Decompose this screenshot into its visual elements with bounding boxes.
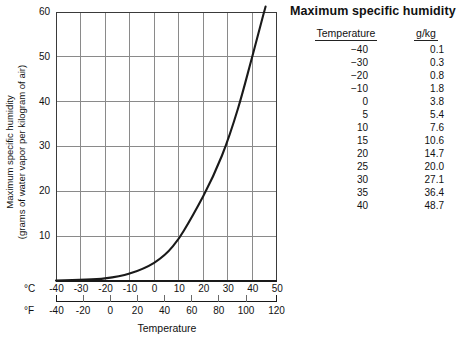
x-tick-f-120: 120	[260, 306, 294, 316]
cell-value: 0.1	[394, 43, 458, 56]
x-axis-title: Temperature	[56, 322, 278, 334]
cell-temperature: 25	[298, 160, 394, 173]
y-tick-20: 20	[26, 186, 50, 196]
table-row: −20 0.8	[298, 69, 458, 82]
cell-value: 3.8	[394, 95, 458, 108]
table-row: 0 3.8	[298, 95, 458, 108]
y-tick-50: 50	[26, 52, 50, 62]
cell-temperature: −10	[298, 82, 394, 95]
cell-temperature: 10	[298, 121, 394, 134]
table-row: 25 20.0	[298, 160, 458, 173]
fahrenheit-unit-label: °F	[24, 306, 34, 316]
cell-temperature: 35	[298, 186, 394, 199]
cell-value: 5.4	[394, 108, 458, 121]
celsius-unit-label: °C	[24, 284, 35, 294]
y-axis-title-line1: Maximum specific humidity	[4, 95, 16, 209]
cell-temperature: −20	[298, 69, 394, 82]
table-row: −40 0.1	[298, 43, 458, 56]
cell-value: 7.6	[394, 121, 458, 134]
table-title: Maximum specific humidity	[290, 4, 467, 18]
column-header-gkg: g/kg	[394, 27, 458, 43]
table-row: 15 10.6	[298, 134, 458, 147]
humidity-table-panel: Maximum specific humidity Temperature g/…	[290, 0, 467, 339]
cell-value: 0.8	[394, 69, 458, 82]
table-row: −30 0.3	[298, 56, 458, 69]
cell-temperature: 5	[298, 108, 394, 121]
table-row: −10 1.8	[298, 82, 458, 95]
figure-root: Maximum specific humidity (grams of wate…	[0, 0, 467, 339]
cell-value: 1.8	[394, 82, 458, 95]
gridlines	[56, 12, 277, 281]
table-row: 40 48.7	[298, 199, 458, 212]
cell-value: 14.7	[394, 147, 458, 160]
humidity-curve	[56, 7, 266, 281]
cell-value: 27.1	[394, 173, 458, 186]
cell-temperature: 15	[298, 134, 394, 147]
cell-value: 48.7	[394, 199, 458, 212]
table-header-row: Temperature g/kg	[298, 27, 458, 43]
y-axis-title-line2: (grams of water vapor per kilogram of ai…	[16, 65, 28, 239]
y-tick-30: 30	[26, 141, 50, 151]
y-tick-10: 10	[26, 231, 50, 241]
cell-temperature: −40	[298, 43, 394, 56]
table-row: 20 14.7	[298, 147, 458, 160]
cell-value: 0.3	[394, 56, 458, 69]
max-specific-humidity-table: Temperature g/kg −40 0.1 −30 0.3 −20 0.8	[298, 27, 458, 212]
cell-value: 36.4	[394, 186, 458, 199]
cell-temperature: 40	[298, 199, 394, 212]
cell-temperature: 30	[298, 173, 394, 186]
x-tick-f-100: 100	[229, 306, 263, 316]
table-row: 5 5.4	[298, 108, 458, 121]
table-row: 30 27.1	[298, 173, 458, 186]
y-tick-40: 40	[26, 97, 50, 107]
cell-value: 10.6	[394, 134, 458, 147]
fahrenheit-axis	[56, 295, 277, 302]
table-row: 35 36.4	[298, 186, 458, 199]
cell-value: 20.0	[394, 160, 458, 173]
table-row: 10 7.6	[298, 121, 458, 134]
cell-temperature: −30	[298, 56, 394, 69]
cell-temperature: 20	[298, 147, 394, 160]
y-tick-60: 60	[26, 7, 50, 17]
table-body: −40 0.1 −30 0.3 −20 0.8 −10 1.8 0 3.8	[298, 43, 458, 212]
column-header-temperature: Temperature	[298, 27, 394, 43]
humidity-chart: Maximum specific humidity (grams of wate…	[0, 0, 285, 339]
cell-temperature: 0	[298, 95, 394, 108]
table-header: Temperature g/kg	[298, 27, 458, 43]
